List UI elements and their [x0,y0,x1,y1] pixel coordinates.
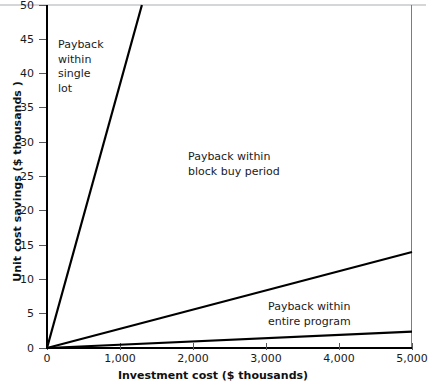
annotation-entire-program: Payback within entire program [268,300,351,329]
annotation-block-buy: Payback within block buy period [188,150,280,179]
annotation-single-lot: Payback within single lot [58,38,104,96]
y-axis-title: Unit cost savings ($ thousands ) [11,67,24,297]
x-axis-title: Investment cost ($ thousands) [0,369,426,382]
